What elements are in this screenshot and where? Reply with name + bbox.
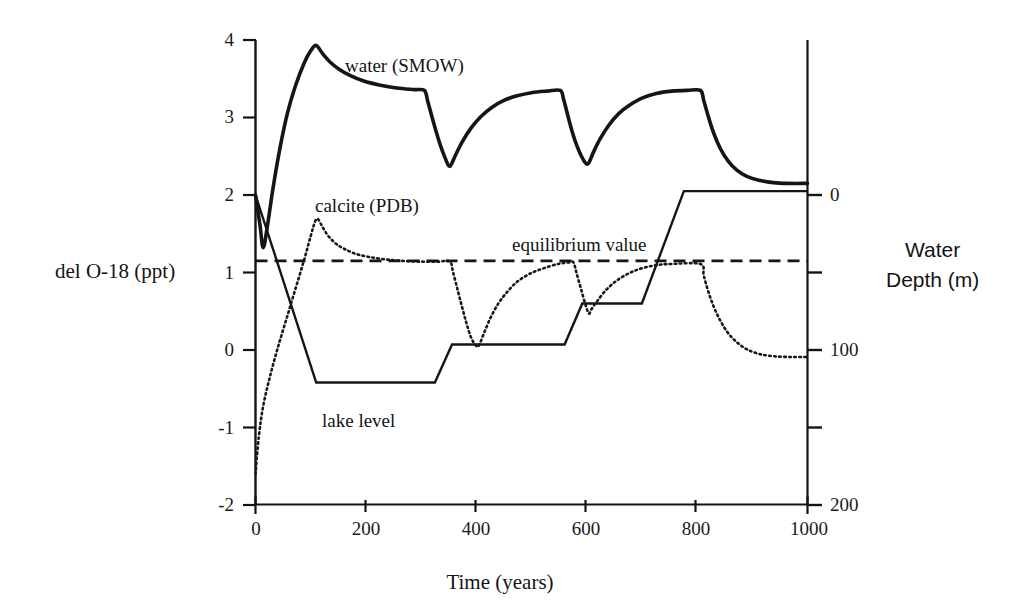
series-line-lake-level — [256, 191, 808, 382]
right-axis-title-line2: Depth (m) — [886, 265, 979, 295]
water-smow-label: water (SMOW) — [345, 55, 464, 77]
xtick-label-800: 800 — [682, 518, 711, 540]
right-axis-title-line1: Water — [886, 235, 979, 265]
figure-page: 4 3 2 1 0 -1 -2 0 200 400 600 800 1000 0… — [0, 0, 1021, 615]
series-line-calcite-pdb — [256, 219, 808, 474]
right-axis-ticks — [807, 195, 822, 505]
y2tick-label-0: 0 — [830, 184, 840, 206]
left-axis-title: del O-18 (ppt) — [55, 259, 175, 284]
ytick-label-3: 3 — [206, 106, 234, 128]
bottom-axis-title: Time (years) — [446, 570, 553, 595]
y2tick-label-200: 200 — [830, 494, 859, 516]
xtick-label-400: 400 — [462, 518, 491, 540]
ytick-label-2: 2 — [206, 184, 234, 206]
equilibrium-value-label: equilibrium value — [512, 234, 647, 256]
ytick-label-neg2: -2 — [200, 494, 234, 516]
ytick-label-0: 0 — [206, 339, 234, 361]
xtick-label-0: 0 — [251, 518, 261, 540]
calcite-pdb-label: calcite (PDB) — [315, 195, 419, 217]
left-axis-ticks — [243, 40, 256, 505]
chart-canvas — [0, 0, 1021, 615]
ytick-label-4: 4 — [206, 29, 234, 51]
ytick-label-1: 1 — [206, 262, 234, 284]
right-axis-title: Water Depth (m) — [886, 235, 979, 296]
xtick-label-200: 200 — [352, 518, 381, 540]
ytick-label-neg1: -1 — [200, 417, 234, 439]
series-line-water-smow — [256, 45, 808, 247]
y2tick-label-100: 100 — [830, 339, 859, 361]
lake-level-label: lake level — [322, 410, 395, 432]
xtick-label-600: 600 — [572, 518, 601, 540]
xtick-label-1000: 1000 — [790, 518, 828, 540]
